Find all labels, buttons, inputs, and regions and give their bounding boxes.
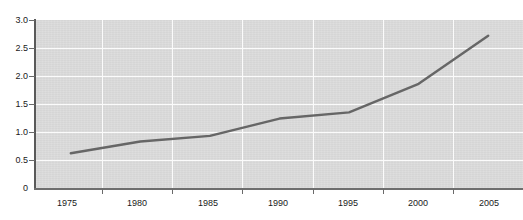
y-tick-mark-2.5 [29, 48, 35, 49]
gridline-horizontal-2.0 [36, 76, 523, 77]
x-tick-mark-1995 [383, 189, 384, 194]
gridline-vertical-4 [313, 20, 314, 188]
x-tick-label-1985: 1985 [188, 198, 228, 208]
gridline-vertical-6 [453, 20, 454, 188]
x-axis-line [34, 188, 523, 190]
line-chart: 3.0 2.5 2.0 1.5 1.0 0.5 0 1975 1980 1985… [0, 0, 523, 220]
x-tick-mark-1975 [102, 189, 103, 194]
gridline-horizontal-1.0 [36, 132, 523, 133]
x-tick-label-2000: 2000 [398, 198, 438, 208]
y-tick-mark-1.5 [29, 104, 35, 105]
gridline-vertical-1 [102, 20, 103, 188]
x-tick-label-1980: 1980 [117, 198, 157, 208]
y-tick-label-wrap-0: 0 [0, 184, 28, 193]
y-tick-mark-2.0 [29, 76, 35, 77]
y-tick-label: 1.0 [2, 128, 28, 137]
gridline-vertical-2 [172, 20, 173, 188]
x-tick-label-1990: 1990 [258, 198, 298, 208]
x-tick-mark-2000 [453, 189, 454, 194]
y-tick-label-wrap-1.0: 1.0 [0, 128, 28, 137]
gridline-horizontal-2.5 [36, 48, 523, 49]
gridline-horizontal-0.5 [36, 160, 523, 161]
gridline-vertical-5 [383, 20, 384, 188]
x-tick-label-1995: 1995 [328, 198, 368, 208]
y-tick-label: 1.5 [2, 100, 28, 109]
gridline-horizontal-1.5 [36, 104, 523, 105]
x-tick-mark-1990 [313, 189, 314, 194]
x-tick-mark-1985 [242, 189, 243, 194]
y-tick-label: 2.0 [2, 72, 28, 81]
y-tick-label-wrap-0.5: 0.5 [0, 156, 28, 165]
y-tick-label-wrap-3.0: 3.0 [0, 16, 28, 25]
plot-area [36, 20, 523, 188]
y-tick-label-wrap-2.0: 2.0 [0, 72, 28, 81]
y-tick-label: 0 [2, 184, 28, 193]
y-tick-mark-1.0 [29, 132, 35, 133]
y-tick-label-wrap-2.5: 2.5 [0, 44, 28, 53]
x-tick-label-1975: 1975 [47, 198, 87, 208]
y-tick-mark-0.5 [29, 160, 35, 161]
x-tick-mark-1980 [172, 189, 173, 194]
y-tick-label: 2.5 [2, 44, 28, 53]
y-tick-label: 0.5 [2, 156, 28, 165]
y-tick-label-wrap-1.5: 1.5 [0, 100, 28, 109]
gridline-vertical-3 [242, 20, 243, 188]
x-tick-label-2005: 2005 [469, 198, 509, 208]
y-tick-label: 3.0 [2, 16, 28, 25]
y-tick-mark-3.0 [29, 20, 35, 21]
